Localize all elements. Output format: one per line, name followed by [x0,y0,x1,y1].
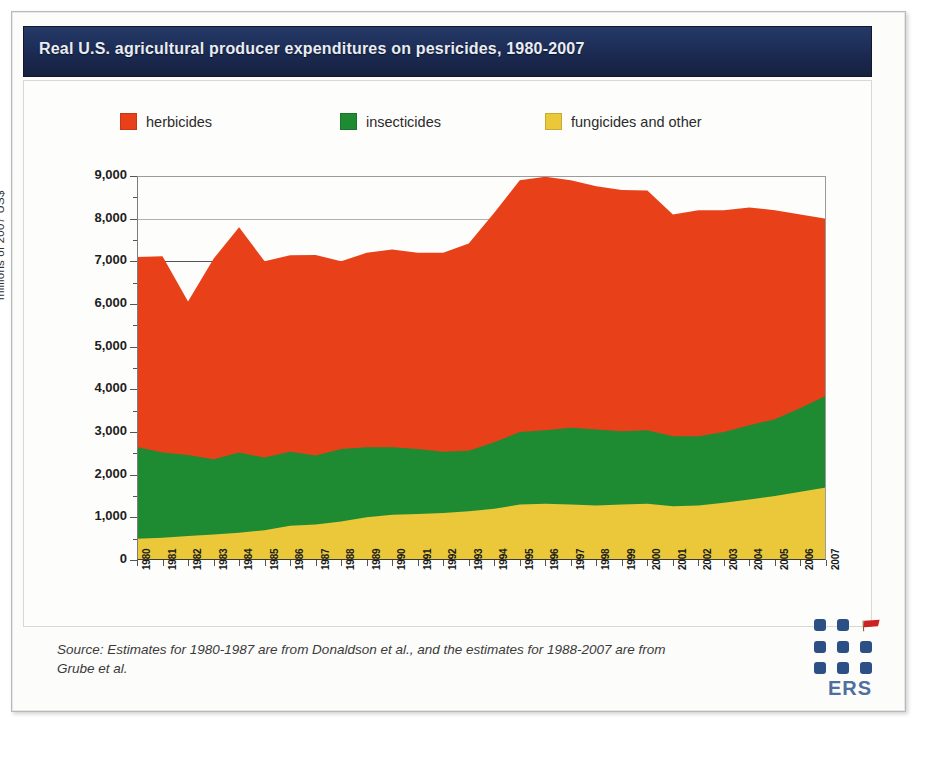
x-tick-label: 1997 [575,549,586,570]
y-tick-mark [130,432,137,433]
x-tick-label: 1992 [447,549,458,570]
stacked-area-series [137,176,826,560]
x-tick-mark [137,560,138,566]
y-tick-mark-minor [133,197,137,198]
chart-legend: herbicides insecticides fungicides and o… [85,113,865,139]
x-tick-mark [800,560,801,566]
x-tick-label: 1985 [269,549,280,570]
x-tick-mark [545,560,546,566]
x-tick-mark [188,560,189,566]
y-tick-label: 5,000 [65,338,127,353]
y-tick-mark [130,517,137,518]
x-tick-mark [622,560,623,566]
x-tick-label: 1986 [294,549,305,570]
x-tick-mark [469,560,470,566]
x-tick-mark [163,560,164,566]
x-tick-label: 2000 [651,549,662,570]
y-tick-mark [130,219,137,220]
x-tick-label: 1983 [218,549,229,570]
x-tick-mark [673,560,674,566]
y-tick-label: 2,000 [65,466,127,481]
y-tick-label: 8,000 [65,210,127,225]
legend-label-herbicides: herbicides [146,114,212,130]
x-tick-label: 1994 [498,549,509,570]
x-tick-mark [596,560,597,566]
y-tick-mark [130,347,137,348]
x-tick-label: 2002 [702,549,713,570]
x-tick-label: 1991 [422,549,433,570]
page-title: Real U.S. agricultural producer expendit… [39,40,585,58]
y-tick-mark-minor [133,496,137,497]
x-tick-label: 2004 [753,549,764,570]
y-tick-label: 7,000 [65,252,127,267]
y-tick-mark [130,389,137,390]
x-tick-label: 2003 [728,549,739,570]
y-tick-label: 0 [65,551,127,566]
y-tick-label: 6,000 [65,295,127,310]
x-tick-label: 1989 [371,549,382,570]
y-tick-mark [130,475,137,476]
x-tick-mark [418,560,419,566]
x-tick-mark [749,560,750,566]
y-tick-mark [130,304,137,305]
x-tick-mark [520,560,521,566]
x-tick-label: 1993 [473,549,484,570]
x-tick-label: 1981 [167,549,178,570]
y-tick-mark-minor [133,453,137,454]
x-tick-mark [265,560,266,566]
x-tick-label: 1995 [524,549,535,570]
x-tick-mark [290,560,291,566]
ers-logo-text: ERS [812,677,888,700]
x-tick-label: 2006 [804,549,815,570]
chart-card-root: Real U.S. agricultural producer expendit… [0,0,929,769]
y-tick-mark-minor [133,283,137,284]
y-tick-mark-minor [133,368,137,369]
chart-title-bar: Real U.S. agricultural producer expendit… [23,26,872,77]
legend-swatch-insecticides [340,113,357,130]
x-tick-mark [494,560,495,566]
x-tick-label: 2005 [779,549,790,570]
x-tick-mark [367,560,368,566]
y-axis-title: millions of 2007 US$ [0,191,6,300]
x-tick-mark [826,560,827,566]
x-tick-label: 1988 [345,549,356,570]
x-tick-mark [214,560,215,566]
x-tick-label: 1996 [549,549,560,570]
x-tick-label: 1990 [396,549,407,570]
legend-swatch-fungicides [545,113,562,130]
x-tick-label: 1987 [320,549,331,570]
x-tick-mark [647,560,648,566]
x-tick-mark [341,560,342,566]
y-tick-mark-minor [133,539,137,540]
x-tick-label: 1998 [600,549,611,570]
x-tick-label: 1984 [243,549,254,570]
y-tick-mark [130,176,137,177]
x-tick-label: 1980 [141,549,152,570]
legend-label-fungicides: fungicides and other [571,114,702,130]
y-tick-mark-minor [133,240,137,241]
y-tick-label: 3,000 [65,423,127,438]
y-tick-label: 4,000 [65,380,127,395]
flag-icon [861,619,882,632]
legend-label-insecticides: insecticides [366,114,441,130]
x-tick-mark [775,560,776,566]
x-tick-mark [698,560,699,566]
y-tick-mark [130,560,137,561]
y-tick-label: 9,000 [65,167,127,182]
y-tick-mark [130,261,137,262]
x-tick-label: 2001 [677,549,688,570]
y-tick-label: 1,000 [65,508,127,523]
legend-item-insecticides: insecticides [340,113,441,130]
legend-item-fungicides: fungicides and other [545,113,702,130]
x-tick-mark [571,560,572,566]
x-tick-mark [392,560,393,566]
x-tick-label: 1982 [192,549,203,570]
x-tick-label: 2007 [830,549,841,570]
y-tick-mark-minor [133,325,137,326]
source-note: Source: Estimates for 1980-1987 are from… [57,640,677,678]
x-tick-mark [316,560,317,566]
plot-area [137,176,826,560]
y-tick-mark-minor [133,411,137,412]
x-tick-label: 1999 [626,549,637,570]
legend-swatch-herbicides [120,113,137,130]
